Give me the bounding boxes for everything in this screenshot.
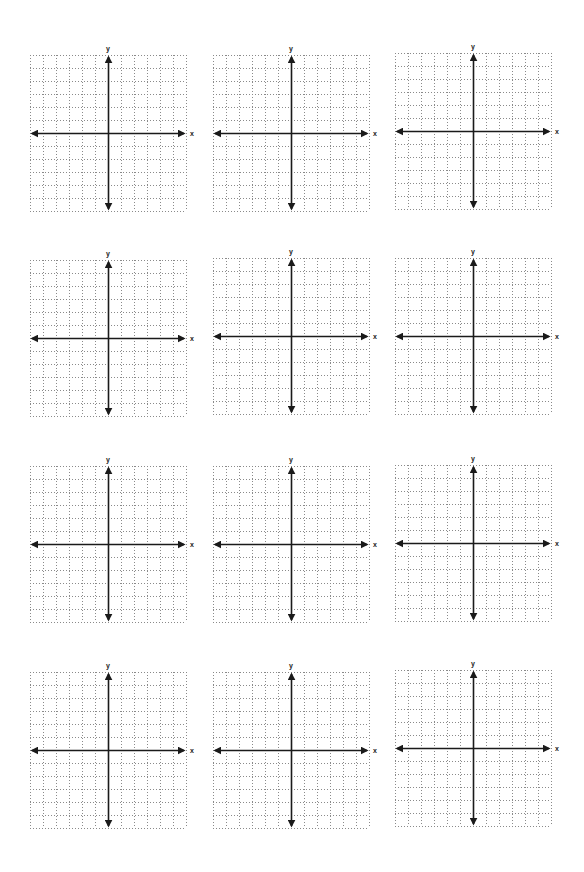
grid-svg: xy [395, 465, 563, 633]
x-axis-label: x [373, 333, 377, 340]
x-axis-label: x [190, 541, 194, 548]
y-axis-label: y [106, 456, 110, 464]
y-axis-label: y [289, 662, 293, 670]
x-axis-label: x [555, 540, 559, 547]
grid-svg: xy [30, 466, 198, 634]
grid-svg: xy [395, 670, 563, 838]
coordinate-plane-2: xy [213, 55, 383, 235]
x-axis-label: x [555, 745, 559, 752]
grid-svg: xy [30, 260, 198, 428]
x-axis-label: x [555, 128, 559, 135]
grid-svg: xy [213, 258, 381, 426]
grid-svg: xy [213, 672, 381, 840]
coordinate-plane-8: xy [213, 466, 383, 646]
y-axis-label: y [471, 43, 475, 51]
grid-svg: xy [213, 55, 381, 223]
coordinate-plane-10: xy [30, 672, 200, 852]
y-axis-label: y [289, 248, 293, 256]
grid-svg: xy [30, 672, 198, 840]
x-axis-label: x [555, 333, 559, 340]
grid-svg: xy [395, 258, 563, 426]
y-axis-label: y [106, 45, 110, 53]
grid-svg: xy [213, 466, 381, 634]
y-axis-label: y [471, 455, 475, 463]
x-axis-label: x [190, 130, 194, 137]
y-axis-label: y [289, 456, 293, 464]
grid-svg: xy [395, 53, 563, 221]
x-axis-label: x [373, 541, 377, 548]
y-axis-label: y [471, 248, 475, 256]
y-axis-label: y [471, 660, 475, 668]
x-axis-label: x [190, 747, 194, 754]
x-axis-label: x [373, 130, 377, 137]
coordinate-plane-9: xy [395, 465, 565, 645]
coordinate-plane-1: xy [30, 55, 200, 235]
grid-svg: xy [30, 55, 198, 223]
coordinate-plane-7: xy [30, 466, 200, 646]
coordinate-plane-5: xy [213, 258, 383, 438]
x-axis-label: x [190, 335, 194, 342]
coordinate-plane-6: xy [395, 258, 565, 438]
coordinate-plane-11: xy [213, 672, 383, 852]
y-axis-label: y [106, 662, 110, 670]
coordinate-plane-12: xy [395, 670, 565, 850]
y-axis-label: y [106, 250, 110, 258]
y-axis-label: y [289, 45, 293, 53]
coordinate-plane-3: xy [395, 53, 565, 233]
coordinate-plane-4: xy [30, 260, 200, 440]
x-axis-label: x [373, 747, 377, 754]
